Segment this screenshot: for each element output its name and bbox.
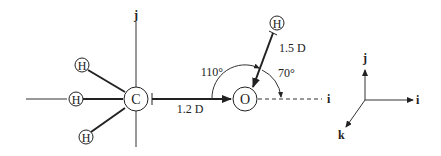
angle-label-110: 110° (201, 65, 224, 79)
atom-h-hydroxyl: H (270, 16, 284, 31)
angle-label-70: 70° (278, 66, 295, 80)
svg-text:C: C (131, 92, 140, 107)
svg-text:H: H (78, 59, 87, 73)
svg-text:H: H (72, 93, 81, 107)
svg-text:H: H (273, 17, 282, 31)
atom-h-upper-left: H (75, 58, 89, 73)
atom-carbon: C (124, 87, 148, 111)
svg-text:O: O (240, 92, 250, 107)
dipole-diagram: j H H H C 1.2 D O i (0, 0, 441, 156)
local-i-axis-label: i (327, 92, 331, 106)
reference-frame (346, 70, 413, 127)
svg-text:H: H (82, 131, 91, 145)
frame-i-label: i (416, 93, 420, 107)
atom-h-lower-left: H (79, 130, 93, 145)
local-j-axis-label: j (133, 8, 138, 22)
h-to-o-magnitude-label: 1.5 D (279, 41, 306, 55)
atom-h-left: H (69, 92, 83, 107)
frame-j-label: j (362, 51, 367, 65)
c-to-o-magnitude-label: 1.2 D (177, 102, 204, 116)
frame-k-label: k (338, 128, 345, 142)
atom-oxygen: O (233, 87, 257, 111)
c-h-bonds (83, 70, 125, 132)
